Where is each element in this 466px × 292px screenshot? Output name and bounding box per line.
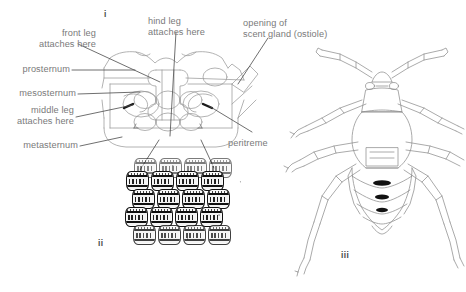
label-front-leg: front leg attaches here bbox=[0, 28, 96, 51]
egg bbox=[201, 171, 224, 191]
ostiole-arrows bbox=[134, 124, 202, 128]
egg bbox=[200, 207, 223, 227]
egg bbox=[132, 189, 155, 209]
egg bbox=[183, 225, 206, 245]
egg bbox=[175, 207, 198, 227]
egg bbox=[157, 189, 180, 209]
egg bbox=[150, 207, 173, 227]
egg bbox=[151, 171, 174, 191]
nymph-drawing bbox=[284, 48, 464, 276]
egg bbox=[182, 189, 205, 209]
egg-row bbox=[132, 189, 232, 209]
label-middle-leg: middle leg attaches here bbox=[0, 105, 74, 128]
panel-numeral-iii: iii bbox=[341, 250, 349, 260]
egg bbox=[133, 225, 156, 245]
egg-row bbox=[126, 171, 226, 191]
egg bbox=[207, 189, 230, 209]
label-metasternum: metasternum bbox=[0, 140, 78, 151]
egg bbox=[176, 171, 199, 191]
nymph-scent-gland-openings bbox=[373, 180, 391, 212]
egg-row bbox=[133, 225, 233, 245]
egg-batch-photo bbox=[124, 158, 256, 250]
egg bbox=[158, 225, 181, 245]
egg bbox=[126, 171, 149, 191]
label-scent-gland-opening: opening of scent gland (ostiole) bbox=[243, 18, 327, 41]
panel-numeral-ii: ii bbox=[98, 238, 103, 248]
label-peritreme: peritreme bbox=[228, 138, 268, 149]
egg-row bbox=[125, 207, 225, 227]
label-mesosternum: mesosternum bbox=[0, 88, 76, 99]
egg bbox=[125, 207, 148, 227]
panel-numeral-i: i bbox=[104, 9, 107, 19]
label-hind-leg: hind leg attaches here bbox=[148, 16, 205, 39]
egg bbox=[208, 225, 231, 245]
figure-root: front leg attaches here hind leg attache… bbox=[0, 0, 466, 292]
label-prosternum: prosternum bbox=[0, 64, 70, 75]
